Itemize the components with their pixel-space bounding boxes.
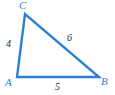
vertex-label-c: C xyxy=(19,0,26,11)
side-length-label-ab: 5 xyxy=(55,82,60,92)
triangle-figure: C A B 4 6 5 xyxy=(0,0,115,95)
side-length-label-ac: 4 xyxy=(6,39,11,49)
vertex-label-b: B xyxy=(101,76,108,87)
vertex-label-a: A xyxy=(5,77,12,88)
triangle-outline xyxy=(17,14,99,77)
side-length-label-cb: 6 xyxy=(67,33,72,43)
